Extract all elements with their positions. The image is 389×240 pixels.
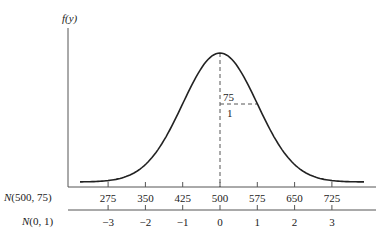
sd-label-original: 75 xyxy=(223,91,234,103)
tick-label: 2 xyxy=(292,216,298,228)
tick-label: −2 xyxy=(140,216,152,228)
tick-label: 725 xyxy=(324,192,341,204)
tick-label: 500 xyxy=(212,192,229,204)
tick-label: −1 xyxy=(177,216,189,228)
tick-label: 3 xyxy=(329,216,335,228)
axis-name-standard: N(0, 1) xyxy=(22,215,53,227)
axis-name-original: N(500, 75) xyxy=(4,191,52,203)
y-axis-label: f(y) xyxy=(62,12,77,24)
normal-curve-diagram xyxy=(0,0,389,240)
sd-label-standard: 1 xyxy=(227,107,233,119)
density-curve xyxy=(80,53,364,182)
ticks-standard xyxy=(108,205,332,210)
tick-label: 0 xyxy=(217,216,223,228)
tick-label: 350 xyxy=(137,192,154,204)
tick-label: 650 xyxy=(286,192,303,204)
tick-label: 425 xyxy=(174,192,191,204)
tick-label: 575 xyxy=(249,192,266,204)
tick-label: 275 xyxy=(100,192,117,204)
tick-label: −3 xyxy=(102,216,114,228)
tick-label: 1 xyxy=(255,216,261,228)
